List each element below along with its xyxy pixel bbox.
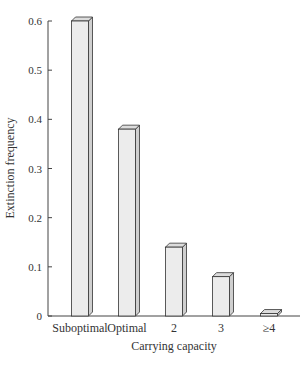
bar-chart: 00.10.20.30.40.50.6SuboptimalOptimal23≥4… [0,0,307,370]
x-axis-label: Carrying capacity [131,339,217,353]
y-tick-label: 0.4 [28,113,42,125]
x-tick-label: 3 [218,321,224,335]
bar [261,310,282,316]
y-axis-label: Extinction frequency [3,118,17,219]
y-tick-label: 0.5 [28,64,42,76]
bar [72,17,93,316]
bars [72,17,282,316]
y-tick-label: 0.2 [28,212,42,224]
x-tick-label: Optimal [107,321,147,335]
bar [119,125,140,316]
bar [213,273,234,316]
y-tick-label: 0 [37,310,43,322]
bar [166,243,187,316]
y-tick-label: 0.1 [28,261,42,273]
x-tick-label: 2 [171,321,177,335]
axes: 00.10.20.30.40.50.6SuboptimalOptimal23≥4 [28,15,300,335]
y-tick-label: 0.3 [28,163,42,175]
x-tick-label: Suboptimal [52,321,108,335]
x-tick-label: ≥4 [263,321,276,335]
y-tick-label: 0.6 [28,15,42,27]
